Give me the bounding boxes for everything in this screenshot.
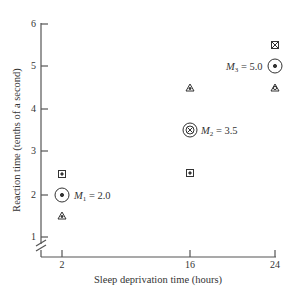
square-dot-marker <box>187 170 194 177</box>
x-tick-label: 2 <box>60 259 65 270</box>
axes <box>36 23 276 257</box>
triangle-marker <box>271 84 279 91</box>
triangle-marker <box>58 212 66 219</box>
triangle-marker <box>186 84 194 91</box>
y-tick-label: 1 <box>31 231 36 242</box>
x-tick-labels: 2 16 24 <box>60 259 281 270</box>
y-tick-label: 5 <box>31 60 36 71</box>
mean-label-m1: M1 = 2.0 <box>73 190 111 203</box>
y-axis-title: Reaction time (tenths of a second) <box>11 68 23 212</box>
mean-circle-marker <box>268 59 282 73</box>
mean-circle-marker <box>55 188 69 202</box>
y-tick-label: 2 <box>31 189 36 200</box>
scatter-chart: 6 5 4 3 2 1 2 16 24 Sleep deprivation ti… <box>0 0 297 296</box>
x-tick-label: 16 <box>185 259 195 270</box>
x-tick-label: 24 <box>270 259 280 270</box>
square-dot-marker <box>59 171 66 178</box>
y-tick-label: 4 <box>31 103 36 114</box>
x-axis-title: Sleep deprivation time (hours) <box>94 274 223 286</box>
y-tick-labels: 6 5 4 3 2 1 <box>31 18 36 242</box>
mean-label-m2: M2 = 3.5 <box>200 125 238 138</box>
square-x-marker <box>272 42 279 49</box>
mean-label-m3: M3 = 5.0 <box>225 61 263 74</box>
mean-circle-marker <box>183 123 197 137</box>
y-tick-label: 3 <box>31 145 36 156</box>
y-tick-label: 6 <box>31 18 36 29</box>
